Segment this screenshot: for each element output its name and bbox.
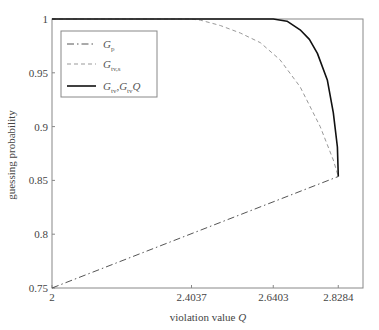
x-tick-label: 2.8284	[323, 291, 354, 303]
y-axis-label: guessing probability	[5, 110, 17, 200]
y-tick-label: 0.85	[29, 174, 49, 186]
x-tick-label: 2	[49, 291, 55, 303]
chart: 0.750.80.850.90.951 22.40372.64032.8284 …	[0, 0, 379, 330]
x-axis-label: violation value Q	[170, 311, 246, 323]
x-tick-label: 2.6403	[258, 291, 289, 303]
y-axis: 0.750.80.850.90.951	[29, 13, 55, 294]
legend: GpGtv,sGtv,GtvQ	[61, 31, 157, 97]
series-line-dashdot	[52, 177, 338, 289]
y-tick-label: 0.75	[29, 282, 49, 294]
y-tick-label: 0.95	[29, 67, 49, 79]
y-tick-label: 0.9	[34, 121, 48, 133]
y-tick-label: 0.8	[34, 228, 48, 240]
x-tick-label: 2.4037	[176, 291, 207, 303]
y-tick-label: 1	[43, 13, 49, 25]
